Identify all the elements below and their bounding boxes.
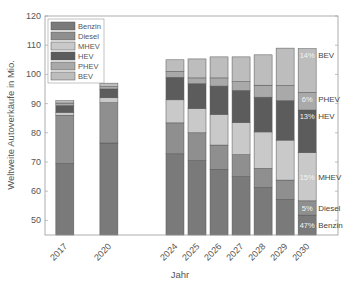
bar-segment-hev-2017 xyxy=(56,106,74,113)
x-axis-title: Jahr xyxy=(171,269,189,280)
bar-segment-bev-2026 xyxy=(210,57,228,78)
legend: BenzinDieselMHEVHEVPHEVBEV xyxy=(48,19,104,83)
bar-segment-phev-2025 xyxy=(188,78,206,84)
percent-label-phev: 6% xyxy=(302,95,313,104)
percent-label-benzin: 47% xyxy=(300,221,315,230)
legend-label-phev: PHEV xyxy=(78,62,98,71)
legend-swatch-diesel xyxy=(51,32,75,40)
bar-segment-benzin-2020 xyxy=(100,143,118,235)
bar-segment-mhev-2025 xyxy=(188,109,206,133)
bar-segment-mhev-2017 xyxy=(56,112,74,115)
x-tick-label: 2026 xyxy=(202,241,223,262)
y-tick-label: 70 xyxy=(31,157,41,167)
bar-segment-mhev-2029 xyxy=(276,140,294,180)
bar-segment-diesel-2025 xyxy=(188,133,206,161)
bar-segment-hev-2026 xyxy=(210,86,228,114)
bar-segment-benzin-2029 xyxy=(276,199,294,235)
bar-segment-phev-2024 xyxy=(166,71,184,77)
x-tick-label: 2028 xyxy=(246,241,267,262)
y-tick-label: 90 xyxy=(31,99,41,109)
y-tick-label: 50 xyxy=(31,215,41,225)
bar-segment-diesel-2024 xyxy=(166,123,184,154)
bar-segment-bev-2027 xyxy=(232,57,250,82)
percent-label-hev: 13% xyxy=(300,112,315,121)
y-tick-label: 60 xyxy=(31,186,41,196)
bar-segment-mhev-2026 xyxy=(210,114,228,145)
x-tick-label: 2017 xyxy=(48,241,69,262)
bar-segment-diesel-2026 xyxy=(210,145,228,169)
legend-label-bev: BEV xyxy=(78,72,93,81)
legend-swatch-benzin xyxy=(51,22,75,30)
bar-segment-bev-2020 xyxy=(100,83,118,87)
y-axis-title: Weltweite Autoverkäufe in Mio. xyxy=(5,60,16,190)
bar-segment-bev-2024 xyxy=(166,60,184,72)
bar-segment-diesel-2020 xyxy=(100,103,118,143)
segment-label-diesel: Diesel xyxy=(318,204,340,213)
x-tick-label: 2030 xyxy=(290,241,311,262)
bar-segment-diesel-2029 xyxy=(276,180,294,199)
bar-segment-diesel-2028 xyxy=(254,168,272,187)
bar-segment-phev-2017 xyxy=(56,103,74,106)
bar-segment-benzin-2026 xyxy=(210,169,228,235)
y-tick-label: 80 xyxy=(31,128,41,138)
segment-label-benzin: Benzin xyxy=(318,221,342,230)
bar-segment-bev-2025 xyxy=(188,59,206,78)
bar-segment-phev-2027 xyxy=(232,82,250,91)
bar-segment-hev-2020 xyxy=(100,89,118,98)
bar-segment-benzin-2025 xyxy=(188,161,206,235)
bar-segment-mhev-2027 xyxy=(232,123,250,155)
y-tick-label: 110 xyxy=(27,40,41,50)
percent-label-bev: 14% xyxy=(300,51,315,60)
percent-label-diesel: 5% xyxy=(302,204,313,213)
segment-label-bev: BEV xyxy=(318,51,335,60)
y-tick-label: 100 xyxy=(26,69,41,79)
legend-swatch-mhev xyxy=(51,42,75,50)
x-tick-label: 2029 xyxy=(268,241,289,262)
segment-label-mhev: MHEV xyxy=(318,173,342,182)
bar-segment-benzin-2024 xyxy=(166,154,184,235)
bar-segment-benzin-2027 xyxy=(232,177,250,235)
bar-segment-hev-2025 xyxy=(188,84,206,109)
bar-segment-bev-2029 xyxy=(276,48,294,85)
bar-segment-benzin-2017 xyxy=(56,163,74,235)
x-axis: 201720202024202520262027202820292030 xyxy=(48,241,312,262)
bar-segment-benzin-2028 xyxy=(254,187,272,235)
x-tick-label: 2025 xyxy=(180,241,201,262)
bar-segment-hev-2024 xyxy=(166,77,184,99)
x-tick-label: 2020 xyxy=(92,241,113,262)
bar-segment-bev-2028 xyxy=(254,55,272,85)
percent-label-mhev: 15% xyxy=(300,173,315,182)
bar-segment-phev-2026 xyxy=(210,78,228,86)
stacked-bar-chart: 5060708090100110120 20172020202420252026… xyxy=(0,0,348,284)
legend-label-hev: HEV xyxy=(78,52,93,61)
bar-segment-phev-2020 xyxy=(100,87,118,89)
legend-label-benzin: Benzin xyxy=(78,22,101,31)
legend-swatch-bev xyxy=(51,72,75,80)
segment-label-hev: HEV xyxy=(318,112,335,121)
bar-segment-hev-2027 xyxy=(232,90,250,122)
legend-swatch-hev xyxy=(51,52,75,60)
legend-swatch-phev xyxy=(51,62,75,70)
legend-label-mhev: MHEV xyxy=(78,42,100,51)
bar-segment-bev-2017 xyxy=(56,101,74,103)
bar-segment-mhev-2020 xyxy=(100,98,118,103)
bar-segment-hev-2029 xyxy=(276,101,294,140)
segment-label-phev: PHEV xyxy=(318,95,340,104)
bar-segment-diesel-2017 xyxy=(56,115,74,163)
y-tick-label: 120 xyxy=(26,11,41,21)
bar-segment-mhev-2028 xyxy=(254,132,272,169)
legend-label-diesel: Diesel xyxy=(78,32,99,41)
bar-segment-phev-2029 xyxy=(276,85,294,100)
bar-segment-hev-2028 xyxy=(254,97,272,132)
bar-segment-phev-2028 xyxy=(254,85,272,97)
bar-segment-mhev-2024 xyxy=(166,100,184,123)
x-tick-label: 2024 xyxy=(158,241,179,262)
x-tick-label: 2027 xyxy=(224,241,245,262)
bar-segment-diesel-2027 xyxy=(232,155,250,177)
